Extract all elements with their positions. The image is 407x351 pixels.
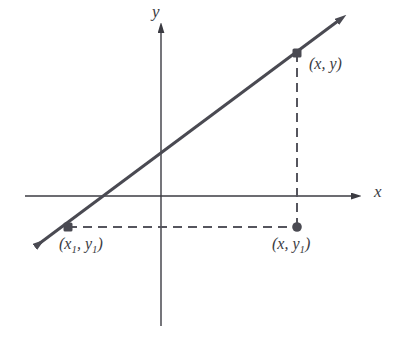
point-label-x-y1-suffix: ) (305, 235, 310, 252)
point-marker-x-y1 (292, 222, 302, 232)
point-label-x1-y1-mid: , y (77, 235, 92, 252)
point-label-x1-y1-suffix: ) (97, 235, 102, 252)
point-label-x-y: (x, y) (309, 55, 342, 73)
x-axis-label: x (374, 182, 382, 202)
point-marker-x-y (293, 49, 302, 58)
point-label-x-y1: (x, y1) (272, 235, 310, 255)
y-axis-label: y (152, 2, 160, 22)
point-label-x1-y1: (x1, y1) (59, 235, 103, 255)
coordinate-plane-figure: y x (x, y) (x1, y1) (x, y1) (0, 0, 407, 351)
point-marker-x1-y1 (64, 223, 73, 232)
figure-canvas (0, 0, 407, 351)
point-label-x-y1-prefix: (x, y (272, 235, 300, 252)
point-label-x1-y1-prefix: (x (59, 235, 71, 252)
